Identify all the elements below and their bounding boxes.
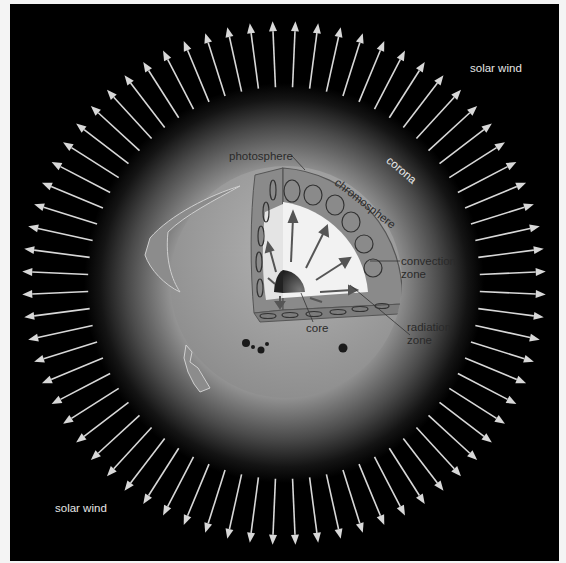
label-solar-wind-top: solar wind — [470, 62, 522, 75]
label-convection-zone-1: convection — [401, 255, 456, 268]
label-radiation-zone-2: zone — [407, 334, 432, 347]
diagram-panel: solar wind solar wind corona photosphere… — [10, 4, 559, 561]
label-convection-zone-2: zone — [401, 268, 426, 281]
label-solar-wind-bottom: solar wind — [55, 502, 107, 515]
sun-diagram — [10, 4, 559, 561]
label-radiation-zone-1: radiation — [407, 321, 451, 334]
label-core: core — [306, 322, 328, 335]
label-photosphere: photosphere — [229, 150, 293, 163]
